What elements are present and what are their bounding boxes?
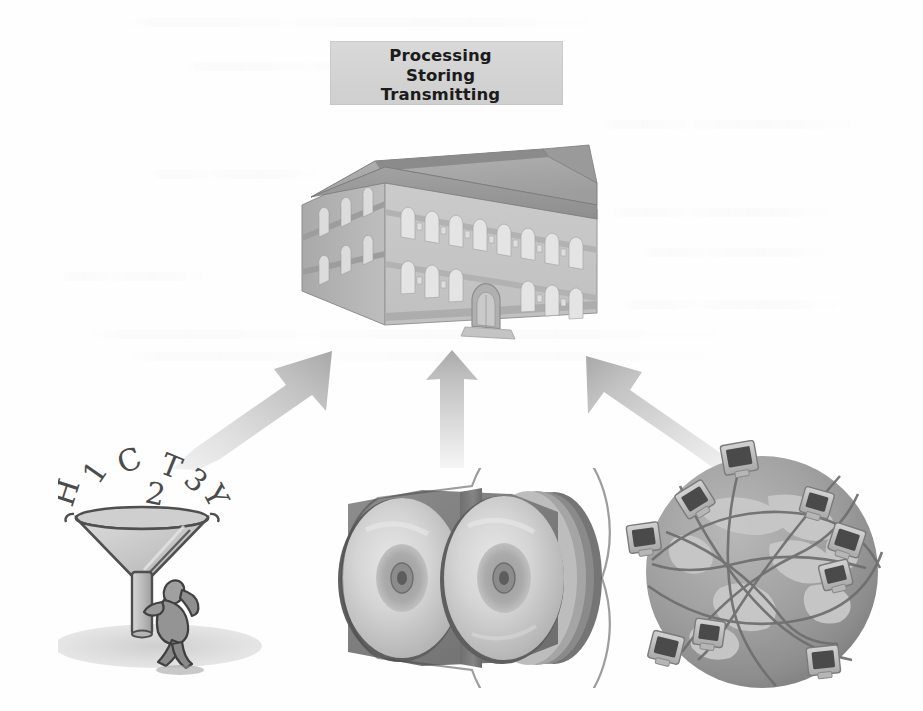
title-line-storing: Storing — [330, 66, 551, 86]
title-banner: Processing Storing Transmitting — [330, 41, 563, 105]
optical-disc-stack — [322, 468, 622, 688]
center-arrow — [424, 348, 480, 468]
disc-face-right — [440, 496, 564, 664]
data-collection-funnel: H 1 C 2 T 3 Y — [58, 440, 298, 680]
building-entrance — [472, 284, 500, 329]
title-banner-text: Processing Storing Transmitting — [330, 46, 563, 105]
title-line-transmitting: Transmitting — [330, 85, 551, 105]
falling-char-2: C — [112, 440, 146, 481]
falling-characters: H 1 C 2 T 3 Y — [58, 440, 237, 514]
falling-char-4: T — [155, 446, 187, 486]
falling-char-0: H — [58, 474, 87, 510]
diagram-canvas: Processing Storing Transmitting — [0, 0, 923, 711]
title-line-processing: Processing — [330, 46, 551, 66]
institution-building — [297, 143, 617, 343]
global-network-globe — [622, 440, 908, 704]
